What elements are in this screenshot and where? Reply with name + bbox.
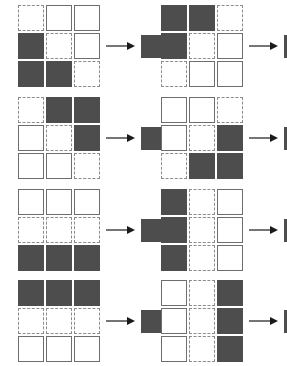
- matrix-cell-solid[interactable]: [161, 308, 187, 334]
- matrix-cell-dashed[interactable]: [74, 217, 100, 243]
- matrix-cell-solid[interactable]: [18, 153, 44, 179]
- matrix-cell-dashed[interactable]: [189, 280, 215, 306]
- matrix-cell-filled[interactable]: [18, 245, 44, 271]
- puzzle-8: [143, 276, 287, 366]
- arrow-right-icon: [106, 132, 136, 144]
- matrix-cell-filled[interactable]: [74, 245, 100, 271]
- matrix-cell-solid[interactable]: [18, 189, 44, 215]
- result-cell-filled[interactable]: [284, 35, 287, 58]
- matrix-cell-dashed[interactable]: [74, 308, 100, 334]
- matrix-cell-solid[interactable]: [189, 97, 215, 123]
- matrix-cell-filled[interactable]: [74, 97, 100, 123]
- matrix-cell-filled[interactable]: [46, 61, 72, 87]
- matrix-cell-filled[interactable]: [18, 280, 44, 306]
- matrix-cell-filled[interactable]: [161, 217, 187, 243]
- matrix-cell-filled[interactable]: [217, 125, 243, 151]
- matrix-cell-dashed[interactable]: [46, 125, 72, 151]
- puzzle-1: [0, 0, 143, 92]
- result-cell-filled[interactable]: [284, 219, 287, 242]
- arrow-right-icon: [249, 132, 279, 144]
- arrow-right-icon: [106, 315, 136, 327]
- matrix-cell-dashed[interactable]: [189, 189, 215, 215]
- matrix-cell-filled[interactable]: [217, 280, 243, 306]
- matrix-cell-dashed[interactable]: [189, 125, 215, 151]
- matrix-cell-solid[interactable]: [189, 61, 215, 87]
- matrix-cell-solid[interactable]: [18, 336, 44, 362]
- matrix-cell-dashed[interactable]: [74, 153, 100, 179]
- matrix-grid: [161, 97, 243, 179]
- result-cell-filled[interactable]: [284, 310, 287, 333]
- arrow-right-icon: [249, 40, 279, 52]
- matrix-grid: [18, 189, 100, 271]
- matrix-cell-solid[interactable]: [161, 125, 187, 151]
- matrix-cell-solid[interactable]: [217, 217, 243, 243]
- matrix-cell-solid[interactable]: [161, 336, 187, 362]
- matrix-cell-dashed[interactable]: [18, 97, 44, 123]
- matrix-cell-dashed[interactable]: [189, 217, 215, 243]
- matrix-cell-filled[interactable]: [217, 308, 243, 334]
- matrix-cell-dashed[interactable]: [74, 61, 100, 87]
- matrix-cell-dashed[interactable]: [46, 33, 72, 59]
- matrix-cell-filled[interactable]: [161, 245, 187, 271]
- matrix-cell-filled[interactable]: [189, 153, 215, 179]
- arrow-right-icon: [106, 40, 136, 52]
- matrix-cell-filled[interactable]: [18, 61, 44, 87]
- matrix-cell-filled[interactable]: [217, 336, 243, 362]
- puzzle-2: [143, 0, 287, 92]
- matrix-grid: [161, 5, 243, 87]
- matrix-cell-solid[interactable]: [161, 97, 187, 123]
- matrix-cell-solid[interactable]: [217, 245, 243, 271]
- matrix-cell-dashed[interactable]: [189, 308, 215, 334]
- matrix-cell-dashed[interactable]: [217, 97, 243, 123]
- matrix-cell-dashed[interactable]: [189, 33, 215, 59]
- matrix-grid: [18, 97, 100, 179]
- matrix-cell-solid[interactable]: [217, 33, 243, 59]
- matrix-cell-solid[interactable]: [74, 336, 100, 362]
- matrix-cell-solid[interactable]: [217, 61, 243, 87]
- puzzle-5: [0, 184, 143, 276]
- matrix-cell-filled[interactable]: [161, 189, 187, 215]
- result-cell-filled[interactable]: [284, 127, 287, 150]
- matrix-cell-solid[interactable]: [161, 280, 187, 306]
- puzzle-3: [0, 92, 143, 184]
- matrix-cell-dashed[interactable]: [18, 217, 44, 243]
- matrix-cell-dashed[interactable]: [46, 217, 72, 243]
- matrix-grid: [161, 189, 243, 271]
- matrix-cell-solid[interactable]: [74, 189, 100, 215]
- puzzle-4: [143, 92, 287, 184]
- matrix-cell-dashed[interactable]: [189, 336, 215, 362]
- matrix-cell-dashed[interactable]: [161, 61, 187, 87]
- arrow-right-icon: [249, 224, 279, 236]
- matrix-grid: [18, 280, 100, 362]
- matrix-cell-filled[interactable]: [161, 33, 187, 59]
- matrix-grid: [18, 5, 100, 87]
- matrix-cell-solid[interactable]: [46, 5, 72, 31]
- matrix-cell-solid[interactable]: [46, 153, 72, 179]
- puzzle-7: [0, 276, 143, 366]
- arrow-right-icon: [106, 224, 136, 236]
- matrix-cell-filled[interactable]: [74, 280, 100, 306]
- arrow-right-icon: [249, 315, 279, 327]
- puzzle-6: [143, 184, 287, 276]
- matrix-cell-filled[interactable]: [46, 97, 72, 123]
- matrix-cell-filled[interactable]: [46, 280, 72, 306]
- matrix-cell-solid[interactable]: [46, 189, 72, 215]
- matrix-cell-dashed[interactable]: [46, 308, 72, 334]
- matrix-cell-dashed[interactable]: [217, 5, 243, 31]
- matrix-cell-dashed[interactable]: [189, 245, 215, 271]
- matrix-cell-solid[interactable]: [74, 5, 100, 31]
- matrix-cell-filled[interactable]: [217, 153, 243, 179]
- matrix-cell-dashed[interactable]: [18, 5, 44, 31]
- matrix-cell-filled[interactable]: [74, 125, 100, 151]
- matrix-cell-solid[interactable]: [18, 125, 44, 151]
- matrix-cell-solid[interactable]: [46, 336, 72, 362]
- matrix-cell-solid[interactable]: [74, 33, 100, 59]
- matrix-cell-filled[interactable]: [18, 33, 44, 59]
- matrix-cell-dashed[interactable]: [18, 308, 44, 334]
- matrix-cell-filled[interactable]: [46, 245, 72, 271]
- matrix-cell-filled[interactable]: [189, 5, 215, 31]
- matrix-cell-dashed[interactable]: [161, 153, 187, 179]
- puzzle-board: [0, 0, 287, 366]
- matrix-cell-filled[interactable]: [161, 5, 187, 31]
- matrix-cell-solid[interactable]: [217, 189, 243, 215]
